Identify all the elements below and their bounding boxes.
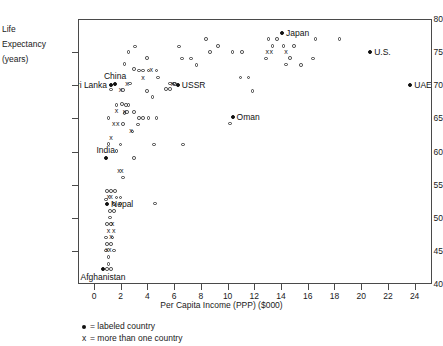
data-point xyxy=(133,45,137,49)
data-label-ussr: USSR xyxy=(182,81,206,90)
x-axis-tick-mark-10 xyxy=(228,284,229,290)
data-point-multiple: x xyxy=(107,246,113,254)
data-point-multiple: x xyxy=(113,107,119,115)
data-point xyxy=(181,143,185,147)
data-point-multiple: x xyxy=(117,86,123,94)
data-label-nepal: Nepal xyxy=(111,199,133,208)
data-point-labeled-ussr xyxy=(176,83,180,87)
data-point xyxy=(204,37,208,41)
data-point xyxy=(292,44,296,48)
data-point xyxy=(127,50,131,54)
legend-label-labeled-country: = labeled country xyxy=(90,320,155,332)
data-point xyxy=(121,122,125,126)
y-axis-title: Life Expectancy (years) xyxy=(2,22,76,67)
scatter-chart-figure: Life Expectancy (years) 4045505560657075… xyxy=(0,0,443,346)
x-axis-tick-mark-8 xyxy=(201,284,202,290)
data-point xyxy=(231,50,235,54)
data-point-labeled-oman xyxy=(231,115,235,119)
plot-area: xxxxxxxxxxxxxxxxxxxxxxxxJapanU.S.UAEOman… xyxy=(79,20,431,283)
x-axis-tick-mark-6 xyxy=(174,284,175,290)
data-label-u-s: U.S. xyxy=(374,48,391,57)
data-point xyxy=(311,57,315,61)
data-point xyxy=(189,57,193,61)
data-point xyxy=(108,216,112,220)
x-axis-tick-mark-0 xyxy=(94,284,95,290)
data-point xyxy=(107,116,111,120)
x-axis-tick-mark-2 xyxy=(121,284,122,290)
legend-label-multiple-countries: = more than one country xyxy=(90,332,182,344)
data-point xyxy=(107,255,111,259)
data-point-labeled-uae xyxy=(408,83,412,87)
data-point-labeled-japan xyxy=(280,31,284,35)
data-point xyxy=(109,267,113,271)
data-point xyxy=(216,44,220,48)
data-point xyxy=(284,63,288,67)
x-axis-tick-mark-12 xyxy=(254,284,255,290)
data-label-japan: Japan xyxy=(286,29,309,38)
y-axis-title-line-3: (years) xyxy=(2,52,76,67)
data-point-multiple: x xyxy=(108,233,114,241)
x-axis-tick-mark-20 xyxy=(361,284,362,290)
data-point xyxy=(180,57,184,61)
data-point xyxy=(195,63,199,67)
data-point-multiple: x xyxy=(115,120,121,128)
data-point xyxy=(127,103,131,107)
data-point xyxy=(338,37,342,41)
data-point xyxy=(264,57,268,61)
data-point xyxy=(132,67,136,71)
legend-item-multiple-countries: x = more than one country xyxy=(79,332,182,344)
y-axis-title-line-2: Expectancy xyxy=(2,37,76,52)
data-point xyxy=(251,89,255,93)
data-point xyxy=(115,149,119,153)
data-point-multiple: x xyxy=(128,127,134,135)
data-point xyxy=(208,50,212,54)
data-point xyxy=(299,63,303,67)
data-point xyxy=(228,122,232,126)
data-point xyxy=(155,69,159,73)
data-point xyxy=(314,37,318,41)
data-point xyxy=(141,116,145,120)
data-point xyxy=(153,202,157,206)
data-point xyxy=(145,56,149,60)
data-point-multiple: x xyxy=(170,80,176,88)
data-point xyxy=(288,56,292,60)
data-point xyxy=(275,37,279,41)
x-axis-tick-mark-22 xyxy=(388,284,389,290)
x-axis-tick-mark-18 xyxy=(334,284,335,290)
data-label-afghanistan: Afghanistan xyxy=(81,273,126,282)
data-point xyxy=(239,76,243,80)
data-point-multiple: x xyxy=(121,108,127,116)
data-point xyxy=(109,88,113,92)
x-axis-tick-mark-24 xyxy=(415,284,416,290)
data-point xyxy=(240,50,244,54)
data-point xyxy=(267,37,271,41)
data-label-uae: UAE xyxy=(414,81,431,90)
x-axis-title: Per Capita Income (PPP) ($000) xyxy=(0,300,443,310)
data-point xyxy=(152,143,156,147)
data-point-multiple: x xyxy=(268,48,274,56)
data-point xyxy=(155,116,159,120)
data-point-labeled-nepal xyxy=(105,202,109,206)
y-axis-title-line-1: Life xyxy=(2,22,76,37)
x-marker-icon: x xyxy=(79,332,89,344)
data-point-multiple: x xyxy=(119,167,125,175)
data-point xyxy=(151,95,155,99)
data-point-labeled-india xyxy=(104,156,108,160)
data-point-labeled-sri-lanka xyxy=(109,83,113,87)
data-point xyxy=(107,262,111,266)
data-point xyxy=(123,62,127,66)
x-axis-tick-mark-4 xyxy=(147,284,148,290)
data-label-oman: Oman xyxy=(237,113,260,122)
data-label-sri-lanka: Sri Lanka xyxy=(79,81,107,90)
data-point-multiple: x xyxy=(148,66,154,74)
data-point-labeled-u-s xyxy=(368,50,372,54)
filled-dot-icon xyxy=(79,320,89,332)
data-point xyxy=(132,156,136,160)
data-label-india: India xyxy=(96,145,114,154)
data-point xyxy=(112,209,116,213)
data-point xyxy=(120,102,124,106)
data-point xyxy=(177,45,181,49)
data-point xyxy=(104,236,108,240)
data-point xyxy=(132,110,136,114)
data-point xyxy=(156,76,160,80)
